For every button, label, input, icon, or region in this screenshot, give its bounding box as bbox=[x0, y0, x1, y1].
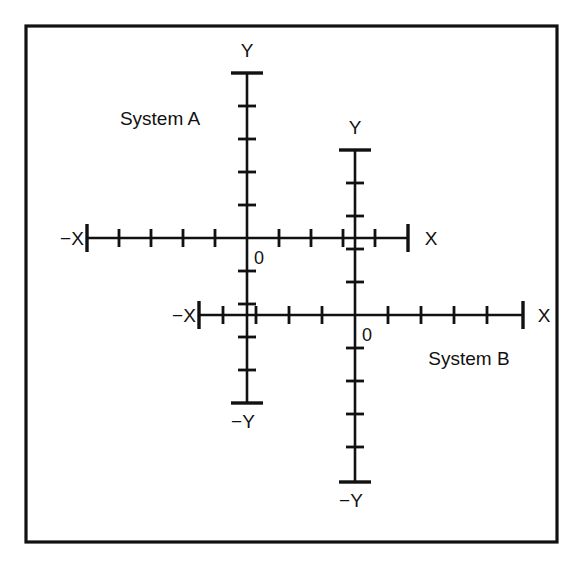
system-b-x-positive-label: X bbox=[538, 305, 551, 326]
figure-border bbox=[26, 26, 557, 542]
system-a-y-negative-label: −Y bbox=[231, 411, 255, 432]
system-b-y-negative-label: −Y bbox=[339, 490, 363, 511]
system-a-x-negative-label: −X bbox=[60, 228, 84, 249]
coordinate-systems-svg: System A System B 0 0 X −X Y −Y X −X Y −… bbox=[0, 0, 584, 562]
system-a-x-positive-label: X bbox=[425, 228, 438, 249]
system-b-x-negative-label: −X bbox=[172, 305, 196, 326]
coordinate-systems-figure: System A System B 0 0 X −X Y −Y X −X Y −… bbox=[0, 0, 584, 562]
system-a-label: System A bbox=[120, 108, 201, 129]
system-a-origin-label: 0 bbox=[254, 248, 264, 268]
system-b-label: System B bbox=[428, 348, 509, 369]
system-b-y-positive-label: Y bbox=[349, 117, 362, 138]
system-b-origin-label: 0 bbox=[362, 325, 372, 345]
system-a-y-positive-label: Y bbox=[241, 40, 254, 61]
